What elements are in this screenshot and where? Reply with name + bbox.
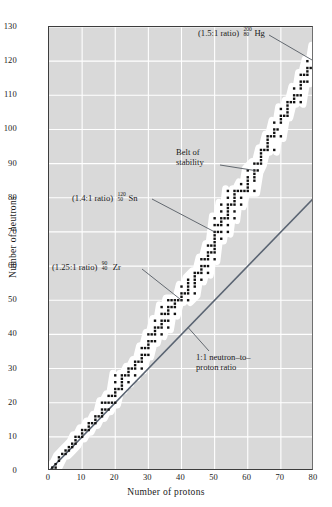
x-tick-label: 70	[265, 473, 295, 482]
y-tick-label: 0	[0, 466, 17, 475]
gridlines	[49, 27, 313, 470]
y-tick-label: 110	[0, 90, 17, 99]
annotation-belt-line1: Belt of	[176, 147, 204, 157]
annotation-belt-line2: stability	[176, 157, 204, 167]
annotation-hg-ratio: (1.5:1 ratio)	[198, 28, 239, 38]
x-tick-label: 0	[33, 473, 63, 482]
y-tick-label: 20	[0, 398, 17, 407]
x-tick-label: 60	[232, 473, 262, 482]
y-tick-label: 120	[0, 56, 17, 65]
annotation-hg-isotope: 20080Hg	[241, 28, 265, 38]
annotation-sn: (1.4:1 ratio) 12050Sn	[72, 192, 137, 203]
y-tick-label: 130	[0, 22, 17, 31]
annotation-ratio11-line1: 1:1 neutron–to–	[196, 352, 251, 362]
annotation-sn-ratio: (1.4:1 ratio)	[72, 193, 113, 203]
x-tick-label: 80	[298, 473, 328, 482]
x-tick-label: 50	[199, 473, 229, 482]
data-points	[51, 46, 313, 470]
annotation-ratio11-line2: proton ratio	[196, 362, 251, 372]
annotation-zr: (1.25:1 ratio) 9040Zr	[52, 261, 121, 272]
plot-canvas	[49, 27, 313, 470]
y-axis-title: Number of neutrons	[8, 177, 18, 297]
annotation-belt-of-stability: Belt of stability	[176, 147, 204, 167]
x-axis-title: Number of protons	[0, 487, 332, 497]
chart-figure: 0102030405060708090100110120130 01020304…	[0, 0, 332, 507]
annotation-one-to-one-ratio: 1:1 neutron–to– proton ratio	[196, 352, 251, 372]
x-tick-label: 10	[66, 473, 96, 482]
y-tick-label: 40	[0, 329, 17, 338]
y-tick-label: 90	[0, 159, 17, 168]
annotation-zr-isotope: 9040Zr	[100, 262, 121, 272]
x-tick-label: 40	[166, 473, 196, 482]
y-tick-label: 100	[0, 124, 17, 133]
y-tick-label: 30	[0, 364, 17, 373]
annotation-zr-ratio: (1.25:1 ratio)	[52, 262, 97, 272]
x-tick-label: 20	[99, 473, 129, 482]
annotation-hg: (1.5:1 ratio) 20080Hg	[198, 27, 265, 38]
y-tick-label: 10	[0, 432, 17, 441]
x-tick-label: 30	[132, 473, 162, 482]
plot-area	[48, 26, 313, 470]
annotation-sn-isotope: 12050Sn	[115, 193, 137, 203]
